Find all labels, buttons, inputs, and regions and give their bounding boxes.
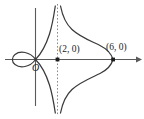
axes-group <box>5 8 142 106</box>
point-label-6-0: (6, 0) <box>106 43 127 53</box>
x-axis-arrow-icon <box>136 56 142 62</box>
point-marker-2-0 <box>56 58 60 62</box>
right-branch-lower-curve <box>61 60 114 114</box>
point-marker-6-0 <box>111 58 115 62</box>
point-label-2-0: (2, 0) <box>59 45 80 55</box>
plot-canvas <box>0 0 144 119</box>
left-branch-upper-curve <box>36 6 56 60</box>
curve-figure: O (2, 0) (6, 0) <box>0 0 144 119</box>
origin-label: O <box>32 63 39 73</box>
